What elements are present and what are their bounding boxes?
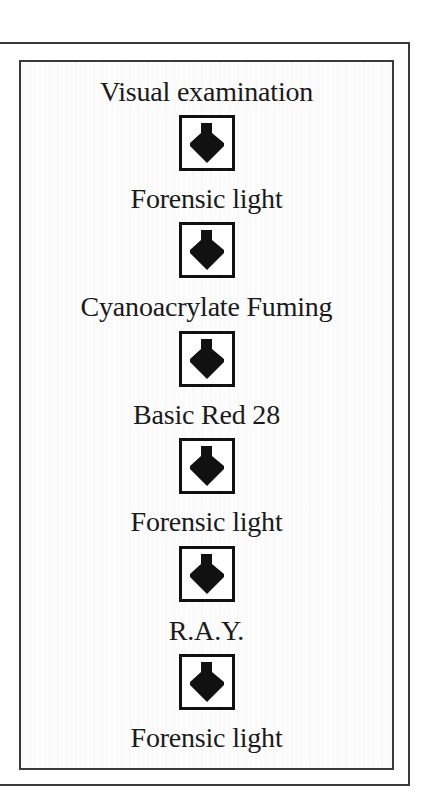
step-visual-examination: Visual examination [21,78,392,106]
down-arrow-icon [179,222,235,278]
down-arrow-icon [179,546,235,602]
arrow-connector-2 [179,222,235,278]
step-forensic-light-2: Forensic light [21,508,392,536]
down-arrow-icon [179,331,235,387]
step-ray: R.A.Y. [21,617,392,645]
step-basic-red-28: Basic Red 28 [21,401,392,429]
step-forensic-light-3: Forensic light [21,724,392,752]
arrow-connector-5 [179,546,235,602]
arrow-connector-1 [179,115,235,171]
flowchart-panel: Visual examination Forensic light Cyanoa… [19,60,394,770]
down-arrow-icon [179,115,235,171]
step-cyanoacrylate-fuming: Cyanoacrylate Fuming [21,293,392,321]
step-forensic-light-1: Forensic light [21,185,392,213]
arrow-connector-3 [179,331,235,387]
down-arrow-icon [179,654,235,710]
down-arrow-icon [179,438,235,494]
arrow-connector-6 [179,654,235,710]
arrow-connector-4 [179,438,235,494]
